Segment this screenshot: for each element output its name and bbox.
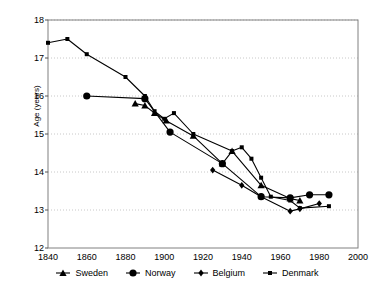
data-point-circle bbox=[306, 191, 313, 198]
chart-legend: SwedenNorwayBelgiumDenmark bbox=[0, 268, 374, 278]
data-point-square bbox=[230, 149, 234, 153]
legend-label: Sweden bbox=[75, 269, 108, 278]
data-point-circle bbox=[129, 269, 136, 276]
legend-item-denmark: Denmark bbox=[262, 268, 319, 278]
legend-label: Norway bbox=[145, 269, 176, 278]
data-point-square bbox=[269, 195, 273, 199]
series-denmark bbox=[46, 37, 331, 210]
data-point-square bbox=[249, 157, 253, 161]
data-point-square bbox=[124, 75, 128, 79]
legend-item-norway: Norway bbox=[125, 268, 176, 278]
series-line bbox=[87, 96, 329, 198]
plot-frame bbox=[48, 20, 358, 248]
x-tick-label: 1960 bbox=[264, 253, 298, 262]
legend-item-belgium: Belgium bbox=[193, 268, 246, 278]
data-point-square bbox=[298, 206, 302, 210]
legend-label: Denmark bbox=[282, 269, 319, 278]
legend-marker-diamond-icon bbox=[193, 268, 209, 278]
data-point-triangle bbox=[132, 100, 139, 106]
data-point-circle bbox=[166, 129, 173, 136]
data-point-square bbox=[65, 37, 69, 41]
series-norway bbox=[83, 92, 332, 201]
data-point-square bbox=[162, 117, 166, 121]
legend-label: Belgium bbox=[213, 269, 246, 278]
data-point-square bbox=[259, 176, 263, 180]
legend-marker-circle-icon bbox=[125, 268, 141, 278]
data-point-square bbox=[327, 204, 331, 208]
data-point-square bbox=[153, 109, 157, 113]
data-point-square bbox=[240, 145, 244, 149]
data-point-square bbox=[172, 111, 176, 115]
x-tick-label: 1900 bbox=[147, 253, 181, 262]
series-line bbox=[213, 170, 320, 211]
x-tick-label: 1940 bbox=[225, 253, 259, 262]
data-point-diamond bbox=[317, 200, 322, 207]
legend-marker-square-icon bbox=[262, 268, 278, 278]
x-tick-label: 1860 bbox=[70, 253, 104, 262]
x-tick-label: 1880 bbox=[109, 253, 143, 262]
series-line bbox=[48, 39, 329, 208]
data-point-square bbox=[85, 52, 89, 56]
legend-item-sweden: Sweden bbox=[55, 268, 108, 278]
chart-container: Age (years) 18171615141312 SwedenNorwayB… bbox=[0, 0, 374, 293]
data-point-square bbox=[143, 94, 147, 98]
x-tick-label: 1980 bbox=[302, 253, 336, 262]
x-tick-label: 1840 bbox=[31, 253, 65, 262]
data-point-square bbox=[46, 41, 50, 45]
data-point-diamond bbox=[288, 208, 293, 215]
data-point-circle bbox=[325, 191, 332, 198]
plot-area bbox=[0, 0, 374, 293]
x-tick-label: 1920 bbox=[186, 253, 220, 262]
data-point-square bbox=[288, 199, 292, 203]
legend-marker-triangle-icon bbox=[55, 268, 71, 278]
data-point-diamond bbox=[239, 182, 244, 189]
data-point-circle bbox=[219, 160, 226, 167]
data-point-circle bbox=[83, 92, 90, 99]
data-point-square bbox=[268, 271, 272, 275]
data-point-diamond bbox=[198, 270, 203, 277]
data-point-square bbox=[191, 132, 195, 136]
x-tick-label: 2000 bbox=[341, 253, 374, 262]
